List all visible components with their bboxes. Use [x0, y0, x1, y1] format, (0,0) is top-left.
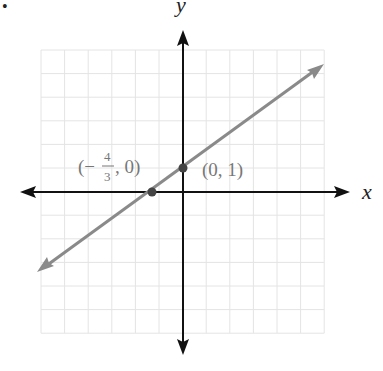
point-a-label: (− 4 3 , 0) — [78, 149, 140, 184]
point-x-intercept — [148, 188, 157, 197]
fraction-denominator: 3 — [104, 169, 111, 184]
fraction-numerator: 4 — [104, 149, 111, 164]
point-y-intercept — [179, 164, 188, 173]
svg-text:(−: (− — [78, 156, 95, 178]
line-arrow-down-left-icon — [37, 257, 54, 272]
y-axis-label: y — [174, 0, 186, 17]
point-b-label: (0, 1) — [202, 159, 243, 181]
x-axis-label: x — [361, 179, 372, 204]
svg-text:, 0): , 0) — [115, 156, 140, 178]
line-arrow-up-right-icon — [307, 64, 324, 79]
coordinate-plane: • y x (− 4 3 , 0) (0, 1) — [0, 0, 383, 371]
problem-bullet: • — [2, 0, 8, 15]
